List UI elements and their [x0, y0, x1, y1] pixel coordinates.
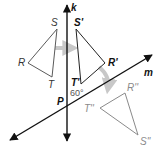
reflection-diagram: k m P 60° S R T S' R' T' T'' R'' S'' — [0, 0, 162, 153]
vertex-r-label: R — [18, 57, 25, 68]
vertex-r-double-prime-label: R'' — [127, 82, 139, 93]
triangle-rst: S R T — [18, 17, 58, 90]
point-p-label: P — [57, 96, 64, 107]
line-m-label: m — [144, 67, 153, 78]
vertex-t-double-prime-label: T'' — [84, 103, 95, 114]
triangle-r2s2t2-shape — [100, 93, 138, 135]
transformation-arrows — [55, 48, 108, 88]
triangle-r1s1t1: S' R' T' — [71, 17, 118, 88]
angle-label: 60° — [70, 88, 84, 98]
triangle-r2s2t2: T'' R'' S'' — [84, 82, 152, 147]
vertex-s-prime-label: S' — [74, 17, 84, 28]
triangle-r1s1t1-shape — [76, 29, 105, 84]
triangle-rst-shape — [28, 29, 57, 77]
gray-arrow-second-reflection — [99, 67, 108, 88]
vertex-t-label: T — [48, 79, 55, 90]
line-k-label: k — [71, 2, 77, 13]
vertex-t-prime-label: T' — [71, 77, 80, 88]
vertex-s-label: S — [51, 17, 58, 28]
vertex-s-double-prime-label: S'' — [140, 136, 152, 147]
vertex-r-prime-label: R' — [108, 57, 118, 68]
